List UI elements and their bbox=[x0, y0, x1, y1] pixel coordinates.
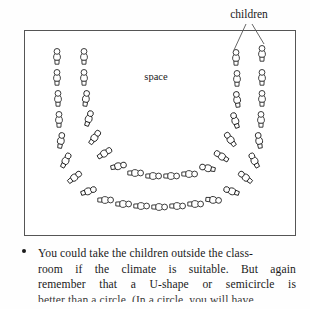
word: that bbox=[99, 277, 117, 293]
bullet-list-item: You could take the children outside the … bbox=[0, 246, 310, 302]
word: U-shape bbox=[150, 277, 189, 293]
word: room bbox=[38, 262, 63, 278]
page: children space You could take the childr… bbox=[0, 0, 310, 309]
word: But bbox=[241, 262, 258, 278]
figure-classroom-layout: children space bbox=[0, 0, 310, 243]
body-text-block: You could take the children outside the … bbox=[0, 246, 310, 309]
text-line-1: You could take the children outside the … bbox=[38, 246, 296, 262]
word: again bbox=[270, 262, 296, 278]
word: a bbox=[131, 277, 136, 293]
word: is bbox=[169, 262, 177, 278]
text-line-2: room if the climate is suitable. But aga… bbox=[38, 262, 296, 278]
diagram-svg: children space bbox=[0, 0, 310, 243]
label-space: space bbox=[144, 71, 168, 82]
word: semicircle bbox=[226, 277, 275, 293]
word: suitable. bbox=[189, 262, 229, 278]
word: remember bbox=[38, 277, 86, 293]
word: climate bbox=[121, 262, 156, 278]
bullet-point-icon bbox=[22, 249, 26, 253]
word: is bbox=[288, 277, 296, 293]
text-line-3: remember that a U-shape or semicircle is bbox=[38, 277, 296, 293]
word: the bbox=[95, 262, 109, 278]
word: if bbox=[75, 262, 82, 278]
word: or bbox=[202, 277, 212, 293]
label-children: children bbox=[230, 8, 268, 20]
text-line-4-clipped: better than a circle. (In a circle, you … bbox=[38, 293, 296, 302]
